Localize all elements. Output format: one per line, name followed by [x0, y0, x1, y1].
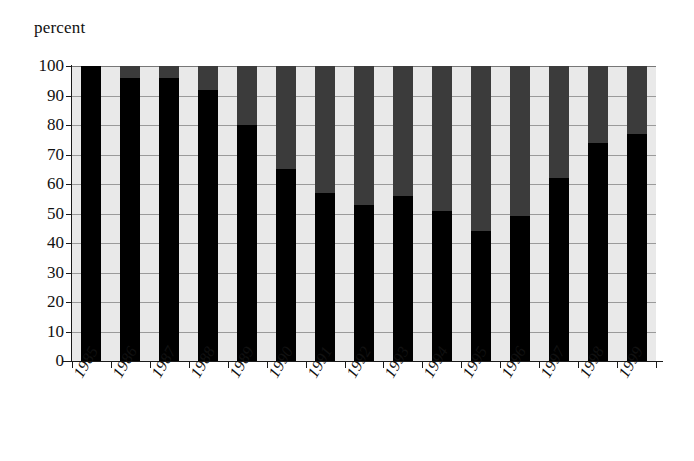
- bar-segment-1990-upper-gray-segment: [276, 66, 296, 169]
- bar-1990: [276, 66, 296, 361]
- y-axis-labels: 0102030405060708090100: [8, 0, 64, 461]
- bar-segment-1987-upper-gray-segment: [159, 66, 179, 78]
- y-tick-label-10: 10: [18, 323, 64, 340]
- bar-segment-1996-lower-black-segment: [510, 216, 530, 361]
- bar-1986: [120, 66, 140, 361]
- bar-1993: [393, 66, 413, 361]
- y-tick-40: [66, 243, 72, 244]
- y-tick-10: [66, 332, 72, 333]
- bars-layer: [72, 66, 656, 361]
- bar-segment-1999-lower-black-segment: [627, 134, 647, 361]
- bar-segment-1988-lower-black-segment: [198, 90, 218, 361]
- y-tick-label-60: 60: [18, 175, 64, 192]
- bar-1987: [159, 66, 179, 361]
- y-tick-50: [66, 214, 72, 215]
- bar-segment-1991-lower-black-segment: [315, 193, 335, 361]
- bar-1989: [237, 66, 257, 361]
- bar-1991: [315, 66, 335, 361]
- bar-segment-1989-lower-black-segment: [237, 125, 257, 361]
- bar-1994: [432, 66, 452, 361]
- bar-1988: [198, 66, 218, 361]
- y-tick-label-0: 0: [18, 352, 64, 369]
- y-tick-label-90: 90: [18, 87, 64, 104]
- y-tick-70: [66, 155, 72, 156]
- y-tick-label-20: 20: [18, 293, 64, 310]
- bar-segment-1995-lower-black-segment: [471, 231, 491, 361]
- bar-1996: [510, 66, 530, 361]
- bar-segment-1999-upper-gray-segment: [627, 66, 647, 134]
- y-tick-label-50: 50: [18, 205, 64, 222]
- y-tick-20: [66, 302, 72, 303]
- bar-segment-1994-lower-black-segment: [432, 211, 452, 361]
- bar-segment-1992-upper-gray-segment: [354, 66, 374, 205]
- bar-1998: [588, 66, 608, 361]
- bar-segment-1998-lower-black-segment: [588, 143, 608, 361]
- y-tick-30: [66, 273, 72, 274]
- bar-segment-1989-upper-gray-segment: [237, 66, 257, 125]
- bar-segment-1990-lower-black-segment: [276, 169, 296, 361]
- x-tick-end: [656, 361, 657, 368]
- stacked-bar-chart: percent 0102030405060708090100 198519861…: [0, 0, 694, 461]
- bar-segment-1988-upper-gray-segment: [198, 66, 218, 90]
- bar-segment-1995-upper-gray-segment: [471, 66, 491, 231]
- bar-segment-1985-lower-black-segment: [81, 66, 101, 361]
- y-tick-label-30: 30: [18, 264, 64, 281]
- y-tick-label-100: 100: [18, 57, 64, 74]
- y-tick-90: [66, 96, 72, 97]
- bar-segment-1997-lower-black-segment: [549, 178, 569, 361]
- y-tick-label-80: 80: [18, 116, 64, 133]
- bar-segment-1991-upper-gray-segment: [315, 66, 335, 193]
- bar-segment-1993-upper-gray-segment: [393, 66, 413, 196]
- bar-segment-1997-upper-gray-segment: [549, 66, 569, 178]
- bar-1985: [81, 66, 101, 361]
- bar-segment-1998-upper-gray-segment: [588, 66, 608, 143]
- bar-1999: [627, 66, 647, 361]
- bar-1992: [354, 66, 374, 361]
- bar-1997: [549, 66, 569, 361]
- y-tick-label-40: 40: [18, 234, 64, 251]
- bar-segment-1986-upper-gray-segment: [120, 66, 140, 78]
- bar-segment-1996-upper-gray-segment: [510, 66, 530, 216]
- y-tick-label-70: 70: [18, 146, 64, 163]
- bar-segment-1986-lower-black-segment: [120, 78, 140, 361]
- y-tick-100: [66, 66, 72, 67]
- bar-segment-1992-lower-black-segment: [354, 205, 374, 361]
- bar-segment-1993-lower-black-segment: [393, 196, 413, 361]
- bar-1995: [471, 66, 491, 361]
- y-tick-80: [66, 125, 72, 126]
- bar-segment-1994-upper-gray-segment: [432, 66, 452, 211]
- bar-segment-1987-lower-black-segment: [159, 78, 179, 361]
- y-tick-60: [66, 184, 72, 185]
- plot-area: [72, 66, 656, 361]
